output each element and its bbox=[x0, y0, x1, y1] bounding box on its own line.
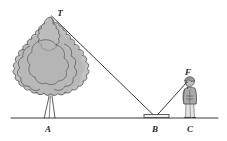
diagram-canvas: T A B F C bbox=[0, 0, 227, 141]
tree bbox=[13, 17, 89, 118]
label-C: C bbox=[187, 124, 194, 134]
label-F: F bbox=[184, 67, 191, 77]
label-A: A bbox=[44, 124, 51, 134]
mirror-similar-triangles-figure: T A B F C bbox=[0, 0, 227, 141]
observer-legs bbox=[185, 103, 195, 117]
label-T: T bbox=[57, 8, 63, 18]
label-B: B bbox=[151, 124, 158, 134]
reflected-ray-mirror-to-eye bbox=[156, 82, 188, 117]
mirror-strip bbox=[144, 115, 169, 118]
eye-point-F bbox=[186, 81, 188, 83]
observer bbox=[183, 77, 197, 118]
